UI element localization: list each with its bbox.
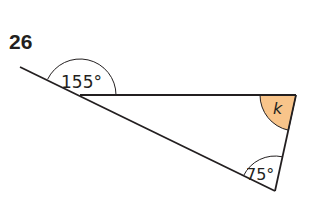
- angle-75-label: 75°: [246, 165, 274, 184]
- triangle-figure: 155° k 75°: [0, 0, 310, 209]
- angle-k-label: k: [273, 99, 283, 118]
- side-left-extended: [20, 67, 275, 191]
- angle-155-label: 155°: [61, 72, 102, 92]
